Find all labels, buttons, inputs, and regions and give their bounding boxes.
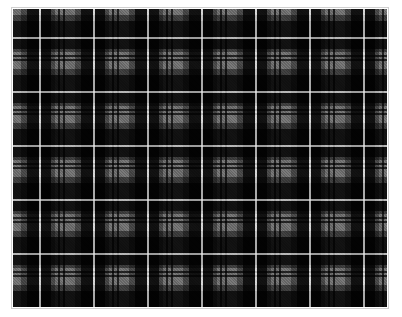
image-frame [11, 7, 389, 309]
tartan-fabric [13, 9, 387, 307]
white-overcheck-horizontal [13, 9, 387, 307]
